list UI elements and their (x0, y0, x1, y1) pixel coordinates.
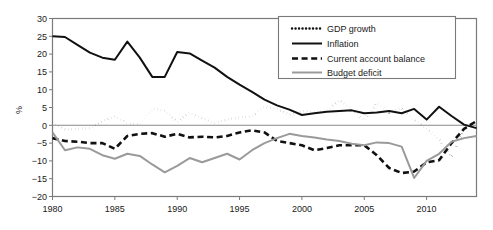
legend: GDP growthInflationCurrent account balan… (279, 17, 456, 79)
x-tick-label: 1980 (42, 204, 62, 214)
y-tick-label: 0 (42, 121, 47, 131)
y-tick-label: −10 (32, 156, 47, 166)
legend-label-inflation: Inflation (327, 39, 359, 49)
x-tick-label: 2005 (354, 204, 374, 214)
legend-label-budget-deficit: Budget deficit (327, 68, 382, 78)
y-tick-label: 10 (37, 85, 47, 95)
x-tick-label: 1990 (167, 204, 187, 214)
y-tick-label: −15 (32, 174, 47, 184)
y-tick-label: 20 (37, 49, 47, 59)
y-tick-label: 30 (37, 14, 47, 24)
x-tick-label: 2010 (417, 204, 437, 214)
y-tick-label: 15 (37, 67, 47, 77)
y-tick-label: −5 (37, 138, 47, 148)
x-tick-label: 1985 (105, 204, 125, 214)
y-tick-label: 5 (42, 103, 47, 113)
x-tick-label: 2000 (292, 204, 312, 214)
y-tick-label: 25 (37, 32, 47, 42)
legend-label-current-account-balance: Current account balance (327, 54, 425, 64)
y-tick-label: −20 (32, 192, 47, 202)
x-tick-label: 1995 (230, 204, 250, 214)
y-axis-title: % (14, 106, 24, 114)
chart-container: 302520151050−5−10−15−20 1980198519901995… (0, 0, 493, 230)
line-chart: 302520151050−5−10−15−20 1980198519901995… (0, 0, 493, 230)
legend-label-gdp-growth: GDP growth (327, 24, 376, 34)
